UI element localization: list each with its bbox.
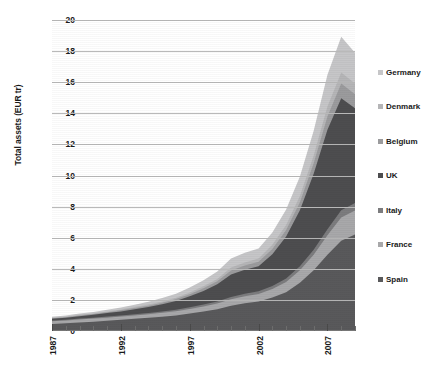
legend-swatch-uk bbox=[378, 173, 383, 178]
plot-area bbox=[52, 20, 355, 331]
legend-item-spain[interactable]: Spain bbox=[378, 273, 432, 285]
gridline bbox=[52, 207, 355, 208]
stacked-area-chart: Total assets (EUR tr) 02468101214161820 … bbox=[0, 0, 432, 387]
gridline bbox=[52, 238, 355, 239]
y-axis-title: Total assets (EUR tr) bbox=[13, 55, 23, 195]
x-axis-tick bbox=[204, 326, 205, 331]
x-axis-tick bbox=[245, 326, 246, 331]
x-axis-tick bbox=[314, 326, 315, 331]
x-axis-tick bbox=[148, 326, 149, 331]
x-axis-tick bbox=[66, 326, 67, 331]
x-axis-tick bbox=[259, 324, 260, 331]
x-axis-tick bbox=[176, 326, 177, 331]
gridline bbox=[52, 113, 355, 114]
gridline bbox=[52, 144, 355, 145]
x-axis-tick bbox=[135, 326, 136, 331]
x-axis-tick bbox=[162, 326, 163, 331]
legend-item-denmark[interactable]: Denmark bbox=[378, 101, 432, 113]
x-axis-tick bbox=[217, 326, 218, 331]
x-axis-tick bbox=[93, 326, 94, 331]
x-axis-tick-label: 2002 bbox=[255, 336, 265, 355]
legend-item-belgium[interactable]: Belgium bbox=[378, 135, 432, 147]
x-axis-tick bbox=[355, 326, 356, 331]
x-axis-tick bbox=[272, 326, 273, 331]
legend-item-france[interactable]: France bbox=[378, 239, 432, 251]
legend-label: France bbox=[386, 240, 412, 249]
x-axis-tick-label: 1992 bbox=[117, 336, 127, 355]
x-axis-tick bbox=[190, 324, 191, 331]
legend-label: Belgium bbox=[386, 137, 418, 146]
x-axis-tick bbox=[121, 324, 122, 331]
chart-legend: GermanyDenmarkBelgiumUKItalyFranceSpain bbox=[378, 66, 432, 308]
legend-item-uk[interactable]: UK bbox=[378, 170, 432, 182]
legend-swatch-denmark bbox=[378, 104, 383, 109]
legend-swatch-spain bbox=[378, 277, 383, 282]
gridline bbox=[52, 82, 355, 83]
gridline bbox=[52, 20, 355, 21]
legend-swatch-belgium bbox=[378, 139, 383, 144]
legend-label: Spain bbox=[386, 275, 408, 284]
x-axis-tick-label: 1987 bbox=[48, 336, 58, 355]
legend-label: UK bbox=[386, 171, 398, 180]
x-axis-tick bbox=[341, 326, 342, 331]
legend-item-germany[interactable]: Germany bbox=[378, 66, 432, 78]
x-axis-tick bbox=[231, 326, 232, 331]
x-axis-tick bbox=[327, 324, 328, 331]
gridline bbox=[52, 176, 355, 177]
x-axis-tick bbox=[300, 326, 301, 331]
legend-label: Denmark bbox=[386, 102, 420, 111]
gridline bbox=[52, 51, 355, 52]
legend-label: Germany bbox=[386, 68, 421, 77]
x-axis-tick bbox=[52, 324, 53, 331]
x-axis-tick-label: 2007 bbox=[323, 336, 333, 355]
gridline bbox=[52, 269, 355, 270]
x-axis-tick-label: 1997 bbox=[186, 336, 196, 355]
legend-swatch-france bbox=[378, 242, 383, 247]
x-axis-tick bbox=[80, 326, 81, 331]
x-axis-tick bbox=[107, 326, 108, 331]
legend-label: Italy bbox=[386, 206, 402, 215]
x-axis-tick bbox=[286, 326, 287, 331]
gridline bbox=[52, 300, 355, 301]
legend-swatch-germany bbox=[378, 70, 383, 75]
legend-swatch-italy bbox=[378, 208, 383, 213]
legend-item-italy[interactable]: Italy bbox=[378, 204, 432, 216]
